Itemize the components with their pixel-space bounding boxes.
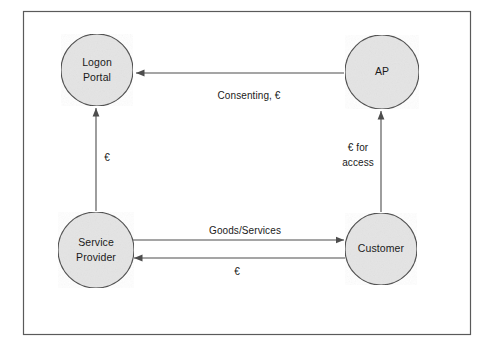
edge-label-euro-bottom: € [234,266,240,277]
service-provider-label-line2: Provider [76,251,116,263]
node-logon-portal[interactable]: Logon Portal [61,34,133,106]
edge-label-access-line2: access [342,157,374,168]
logon-portal-label-line1: Logon [82,56,112,68]
edge-label-consenting: Consenting, € [217,90,280,101]
flow-diagram: Logon Portal AP Service Provider Custome… [0,0,492,352]
node-service-provider[interactable]: Service Provider [58,212,134,288]
edge-label-access-line1: € for [348,142,369,153]
node-customer[interactable]: Customer [345,213,417,285]
edge-label-euro-left: € [104,152,110,163]
logon-portal-label-line2: Portal [83,71,111,83]
service-provider-label-line1: Service [78,236,114,248]
ap-label: AP [375,65,389,77]
node-ap[interactable]: AP [345,35,419,109]
diagram-page: Logon Portal AP Service Provider Custome… [0,0,492,352]
customer-label: Customer [358,242,405,254]
edge-label-goods-services: Goods/Services [209,225,281,236]
